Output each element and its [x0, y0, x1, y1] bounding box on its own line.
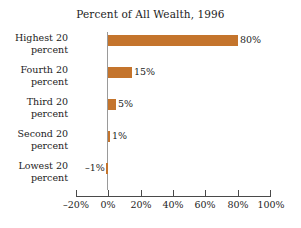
category-label: Second 20 percent — [0, 128, 68, 152]
plot-area: Highest 20 percent 80% Fourth 20 percent… — [0, 0, 301, 228]
x-axis-tick-label: 100% — [257, 199, 284, 210]
x-axis-tick — [205, 190, 206, 197]
x-axis-tick-label: 40% — [162, 199, 183, 210]
bar — [108, 67, 132, 78]
category-label: Third 20 percent — [0, 96, 68, 120]
category-label-line: Lowest 20 — [0, 160, 68, 172]
category-label: Highest 20 percent — [0, 32, 68, 56]
category-label-line: Fourth 20 — [0, 64, 68, 76]
bar-row: Highest 20 percent 80% — [0, 32, 301, 64]
category-label-line: Second 20 — [0, 128, 68, 140]
category-label-line: percent — [0, 76, 68, 88]
x-axis-tick — [76, 190, 77, 197]
x-axis-tick — [141, 190, 142, 197]
category-label: Fourth 20 percent — [0, 64, 68, 88]
x-axis-tick — [173, 190, 174, 197]
bar-value-label: 15% — [134, 66, 155, 77]
x-axis-tick — [238, 190, 239, 197]
wealth-distribution-bar-chart: Percent of All Wealth, 1996 Highest 20 p… — [0, 0, 301, 228]
bar-value-label: 80% — [240, 34, 261, 45]
bar — [108, 99, 116, 110]
bar-value-label: 5% — [118, 98, 133, 109]
category-label-line: percent — [0, 108, 68, 120]
x-axis-tick-label: 0% — [100, 199, 115, 210]
category-label-line: percent — [0, 140, 68, 152]
bar-row: Second 20 percent 1% — [0, 128, 301, 160]
bar-row: Fourth 20 percent 15% — [0, 64, 301, 96]
category-label: Lowest 20 percent — [0, 160, 68, 184]
bar — [108, 35, 238, 46]
x-axis-tick — [270, 190, 271, 197]
bar-value-label: 1% — [112, 130, 127, 141]
x-axis-tick-label: 60% — [194, 199, 215, 210]
bar — [108, 131, 110, 142]
x-axis-tick-label: 80% — [227, 199, 248, 210]
category-label-line: percent — [0, 172, 68, 184]
category-label-line: Highest 20 — [0, 32, 68, 44]
x-axis-tick-label: 20% — [130, 199, 151, 210]
x-axis-tick — [108, 190, 109, 197]
bar-row: Lowest 20 percent –1% — [0, 160, 301, 192]
x-axis-tick-label: –20% — [63, 199, 89, 210]
bar-value-label: –1% — [85, 162, 105, 173]
category-label-line: Third 20 — [0, 96, 68, 108]
bar — [106, 163, 108, 174]
bar-row: Third 20 percent 5% — [0, 96, 301, 128]
category-label-line: percent — [0, 44, 68, 56]
